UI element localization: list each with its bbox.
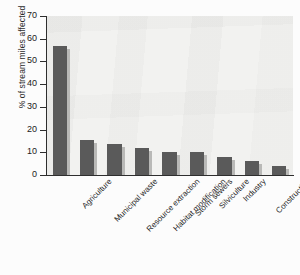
- x-axis-line: [46, 175, 294, 176]
- y-axis-title: % of stream miles affected: [17, 0, 27, 137]
- x-axis-labels: AgricultureMunicipal wasteResource extra…: [46, 177, 293, 273]
- bar-slot: [156, 16, 183, 175]
- bar-slot: [73, 16, 100, 175]
- y-tick-label: 60: [11, 34, 37, 43]
- bar-slot: [101, 16, 128, 175]
- bar-chart: % of stream miles affected 0102030405060…: [0, 0, 300, 275]
- bar: [135, 148, 149, 175]
- bar-slot: [46, 16, 73, 175]
- bar-slot: [238, 16, 265, 175]
- bar-slot: [128, 16, 155, 175]
- bar: [190, 152, 204, 175]
- bar: [162, 152, 176, 175]
- y-tick-label: 10: [11, 147, 37, 156]
- y-tick-label: 70: [11, 11, 37, 20]
- bar: [217, 157, 231, 175]
- y-tick-label: 30: [11, 102, 37, 111]
- bar: [245, 161, 259, 175]
- bar: [80, 140, 94, 175]
- y-tick-label: 0: [11, 170, 37, 179]
- y-tick-label: 20: [11, 125, 37, 134]
- bar: [272, 166, 286, 175]
- bar: [107, 144, 121, 175]
- bar-slot: [211, 16, 238, 175]
- y-tick-mark: [40, 175, 46, 176]
- x-axis-label: Construction: [274, 177, 300, 215]
- bar-slot: [266, 16, 293, 175]
- y-tick-label: 50: [11, 56, 37, 65]
- bar-series: [46, 16, 293, 175]
- bar-slot: [183, 16, 210, 175]
- x-axis-label: Agriculture: [80, 177, 113, 210]
- y-tick-label: 40: [11, 79, 37, 88]
- bar: [53, 46, 67, 175]
- x-axis-label: Municipal waste: [113, 177, 160, 224]
